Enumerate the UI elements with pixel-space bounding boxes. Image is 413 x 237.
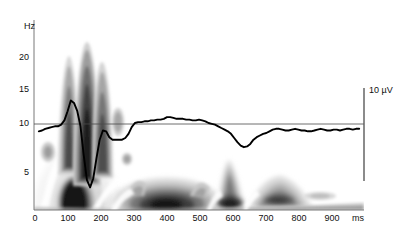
blob-patch-55ms bbox=[41, 142, 55, 162]
x-tick-400: 400 bbox=[154, 213, 180, 223]
spectrogram-canvas bbox=[0, 0, 413, 237]
x-tick-900: 900 bbox=[319, 213, 345, 223]
y-tick-10: 10 bbox=[9, 118, 29, 128]
time-frequency-figure: Hz 20 15 10 5 0 100 200 300 400 500 600 … bbox=[0, 0, 413, 237]
x-tick-200: 200 bbox=[88, 213, 114, 223]
blob-patch-250ms bbox=[122, 153, 132, 165]
x-axis-unit-label: ms bbox=[352, 213, 364, 223]
x-tick-500: 500 bbox=[187, 213, 213, 223]
scalebar-label: 10 µV bbox=[369, 85, 393, 95]
x-tick-600: 600 bbox=[220, 213, 246, 223]
y-axis-unit-label: Hz bbox=[24, 21, 35, 31]
y-tick-15: 15 bbox=[9, 84, 29, 94]
x-tick-800: 800 bbox=[286, 213, 312, 223]
x-tick-300: 300 bbox=[121, 213, 147, 223]
x-tick-0: 0 bbox=[22, 213, 48, 223]
blob-faint-900ms bbox=[304, 192, 336, 200]
y-tick-20: 20 bbox=[9, 52, 29, 62]
x-tick-700: 700 bbox=[253, 213, 279, 223]
blob-patch-240ms bbox=[112, 108, 124, 136]
spectrogram-power-map bbox=[32, 20, 364, 237]
x-tick-100: 100 bbox=[55, 213, 81, 223]
y-tick-5: 5 bbox=[9, 167, 29, 177]
